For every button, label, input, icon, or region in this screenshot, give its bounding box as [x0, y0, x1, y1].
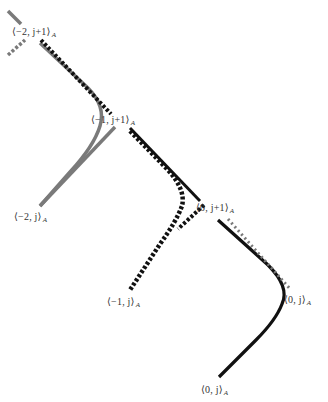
- label-subscript: A: [52, 31, 56, 39]
- black-dashed-upper-left: [41, 40, 111, 114]
- gray-straight-segment: [40, 127, 115, 206]
- label-subscript: A: [230, 207, 234, 215]
- label-text: ⟨−2, j+1⟩: [12, 26, 51, 37]
- gray-top-solid-stub: [8, 11, 21, 24]
- label-subscript: A: [131, 119, 135, 127]
- label-minus2-jplus1: ⟨−2, j+1⟩A: [12, 26, 56, 41]
- label-minus2-j: ⟨−2, j⟩A: [14, 211, 47, 226]
- black-dashed-bend-curve: [130, 131, 183, 290]
- label-subscript: A: [224, 389, 228, 397]
- label-minus1-jplus1: ⟨−1, j+1⟩A: [91, 114, 135, 129]
- label-text: ⟨0, j+1⟩: [196, 202, 229, 213]
- label-subscript: A: [43, 216, 47, 224]
- gray-top-dashed-stub: [8, 40, 25, 55]
- label-text: ⟨0, j⟩: [284, 294, 306, 305]
- gray-dashed-right: [228, 219, 291, 290]
- label-0-jplus1: ⟨0, j+1⟩A: [196, 202, 234, 217]
- label-text: ⟨0, j⟩: [201, 384, 223, 395]
- label-text: ⟨−1, j⟩: [107, 296, 135, 307]
- label-subscript: A: [136, 301, 140, 309]
- label-text: ⟨−1, j+1⟩: [91, 114, 130, 125]
- label-minus1-j: ⟨−1, j⟩A: [107, 296, 140, 311]
- black-solid-bend-curve: [218, 220, 284, 377]
- label-subscript: A: [307, 299, 311, 307]
- black-solid-middle: [130, 128, 200, 201]
- label-0-j-bottom: ⟨0, j⟩A: [201, 384, 228, 399]
- worldline-diagram: [0, 0, 328, 402]
- label-0-j-right: ⟨0, j⟩A: [284, 294, 311, 309]
- label-text: ⟨−2, j⟩: [14, 211, 42, 222]
